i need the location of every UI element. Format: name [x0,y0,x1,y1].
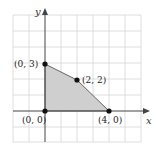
vertex-label-2-2: (2, 2) [82,75,106,85]
feasible-region-diagram: x y (0, 3) (2, 2) (0, 0) (4, 0) [0,0,156,153]
vertex-0-3 [42,61,47,66]
vertex-0-0 [42,108,47,113]
x-axis-arrow-icon [143,108,150,114]
y-axis-arrow-icon [42,8,48,15]
vertex-label-0-0: (0, 0) [22,115,46,125]
x-axis-label: x [146,115,152,126]
y-axis-label: y [34,6,41,17]
vertex-4-0 [106,108,111,113]
vertex-label-4-0: (4, 0) [98,115,122,125]
vertex-label-0-3: (0, 3) [14,59,38,69]
vertex-2-2 [74,77,79,82]
